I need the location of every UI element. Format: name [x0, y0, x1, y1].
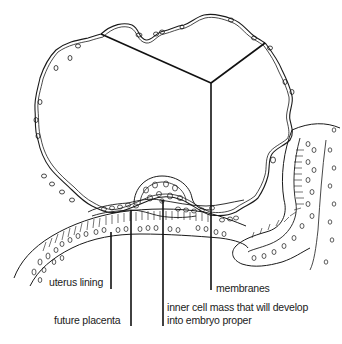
label-membranes: membranes — [216, 282, 270, 294]
label-inner-cell-mass-line1: inner cell mass that will develop — [167, 301, 308, 313]
embryo-implantation-diagram — [0, 0, 342, 344]
membranes-leader-left — [101, 34, 211, 83]
right-uterine-fold — [233, 124, 340, 270]
label-inner-cell-mass-line2: into embryo proper — [167, 314, 252, 326]
membranes-leader-right — [211, 43, 265, 83]
label-future-placenta: future placenta — [54, 314, 120, 326]
inner-cell-mass — [134, 176, 210, 210]
label-uterus-lining: uterus lining — [49, 276, 103, 288]
